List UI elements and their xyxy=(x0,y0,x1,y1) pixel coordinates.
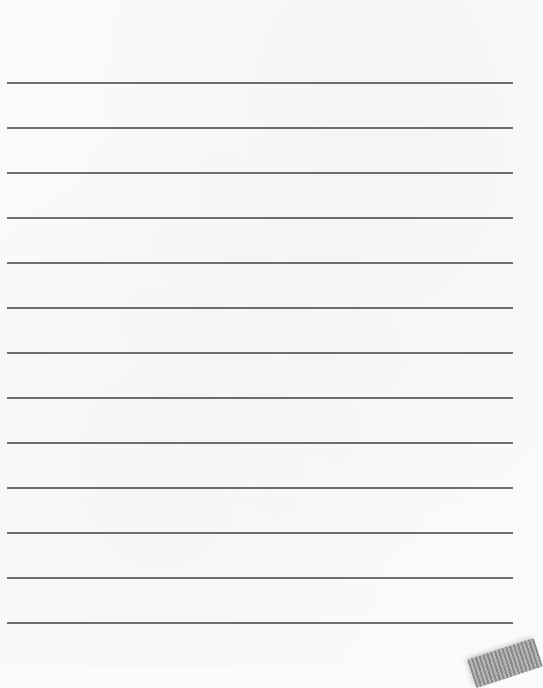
ruled-line-13 xyxy=(7,622,513,624)
ruled-line-10 xyxy=(7,487,513,489)
ruled-line-3 xyxy=(7,172,513,174)
ruled-line-1 xyxy=(7,82,513,84)
ruled-line-7 xyxy=(7,352,513,354)
ruled-line-8 xyxy=(7,397,513,399)
ruled-line-9 xyxy=(7,442,513,444)
ruled-line-5 xyxy=(7,262,513,264)
ruled-line-6 xyxy=(7,307,513,309)
ruled-line-12 xyxy=(7,577,513,579)
ruled-line-4 xyxy=(7,217,513,219)
ruled-line-11 xyxy=(7,532,513,534)
ruled-line-2 xyxy=(7,127,513,129)
